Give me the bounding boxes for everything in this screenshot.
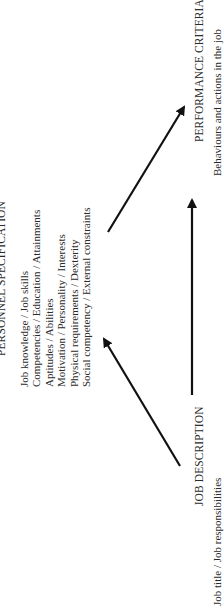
performance-criteria-subtitle: Behaviours and actions in the job xyxy=(212,29,223,176)
performance-criteria-title: PERFORMANCE CRITERIA xyxy=(194,0,206,142)
list-item: Competencies / Education / Attainments xyxy=(30,207,42,387)
list-item: Job knowledge / Job skills xyxy=(18,207,30,387)
list-item: Aptitudes / Abilities xyxy=(43,207,55,387)
job-description-subtitle: Job title / Job responsibilities xyxy=(212,478,223,606)
personnel-specification-title: PERSONNEL SPECIFICATION xyxy=(0,201,8,356)
arrow-personnel-to-performance xyxy=(108,107,184,232)
personnel-specification-list: Job knowledge / Job skills Competencies … xyxy=(18,207,92,387)
arrow-job-to-personnel xyxy=(104,339,180,466)
list-item: Motivation / Personality / Interests xyxy=(55,207,67,387)
job-description-title: JOB DESCRIPTION xyxy=(194,406,206,506)
list-item: Social competency / External constraints xyxy=(80,207,92,387)
list-item: Physical requirements / Dexterity xyxy=(68,207,80,387)
